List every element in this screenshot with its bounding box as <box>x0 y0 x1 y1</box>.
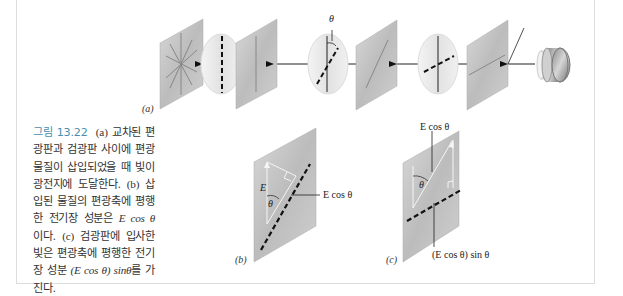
component-label-b: E cos θ <box>323 189 352 200</box>
theta-label-a: θ <box>329 13 334 24</box>
panel-b: E θ E cos θ (b) <box>235 128 352 266</box>
analyzer-plate-horizontal <box>467 20 524 110</box>
panel-c-label: (c) <box>386 254 398 266</box>
figure-number: 그림 13.22 <box>33 126 88 139</box>
caption-math-b: E cos θ <box>119 212 155 224</box>
unpolarized-source-plate <box>160 19 203 109</box>
analyzer-disc-rotated <box>418 34 458 94</box>
theta-label-b: θ <box>268 198 273 209</box>
photocell <box>537 48 570 82</box>
panel-b-label: (b) <box>235 254 247 266</box>
polarizer-disc-vertical <box>201 34 241 94</box>
caption-marker-b: (b) <box>127 178 139 190</box>
top-label-c: E cos θ <box>420 121 449 132</box>
panel-a-label: (a) <box>142 103 154 115</box>
caption-marker-a: (a) <box>96 126 108 138</box>
theta-label-c: θ <box>419 179 424 190</box>
e-label-b: E <box>259 182 266 193</box>
caption-math-c: (E cos θ) sinθ <box>70 264 131 276</box>
caption-text-b-post: 이다. <box>33 230 56 243</box>
polarizer-plate-rotated <box>356 20 397 110</box>
polarizer-plate-vertical <box>236 19 277 109</box>
panel-c: θ E cos θ (E cos θ) sin θ (c) <box>386 121 490 266</box>
component-label-c: (E cos θ) sin θ <box>432 249 490 261</box>
panel-a: θ (a) <box>142 13 570 115</box>
caption-marker-c: (c) <box>62 230 74 242</box>
figure-caption: 그림 13.22 (a) 교차된 편광판과 검광판 사이에 편광 물질이 삽입되… <box>33 124 155 296</box>
sample-disc: θ <box>308 13 348 94</box>
